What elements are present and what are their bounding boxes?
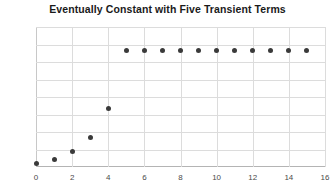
x-tick-label: 2 — [60, 173, 84, 182]
gridline-vertical — [325, 27, 326, 167]
x-tick-label: 6 — [132, 173, 156, 182]
data-point — [214, 48, 219, 53]
x-tick-label: 0 — [24, 173, 48, 182]
gridline-horizontal — [36, 167, 325, 168]
chart-container: Eventually Constant with Five Transient … — [0, 0, 335, 192]
data-point — [106, 106, 111, 111]
x-tick-label: 12 — [241, 173, 265, 182]
data-point — [52, 157, 57, 162]
x-tick-label: 14 — [277, 173, 301, 182]
data-point — [232, 48, 237, 53]
gridline-vertical — [36, 27, 37, 167]
data-point — [124, 48, 129, 53]
gridline-vertical — [108, 27, 109, 167]
data-point — [178, 48, 183, 53]
plot-area: 00.10.20.30.40.50.60.70.8 0246810121416 — [36, 27, 325, 167]
x-tick-label: 4 — [96, 173, 120, 182]
data-point — [196, 48, 201, 53]
data-point — [142, 48, 147, 53]
x-tick-label: 10 — [205, 173, 229, 182]
data-point — [34, 161, 39, 166]
x-tick-label: 8 — [169, 173, 193, 182]
x-tick-label: 16 — [313, 173, 335, 182]
data-point — [88, 135, 93, 140]
data-point — [160, 48, 165, 53]
data-point — [70, 149, 75, 154]
chart-title: Eventually Constant with Five Transient … — [0, 3, 335, 15]
gridline-vertical — [72, 27, 73, 167]
